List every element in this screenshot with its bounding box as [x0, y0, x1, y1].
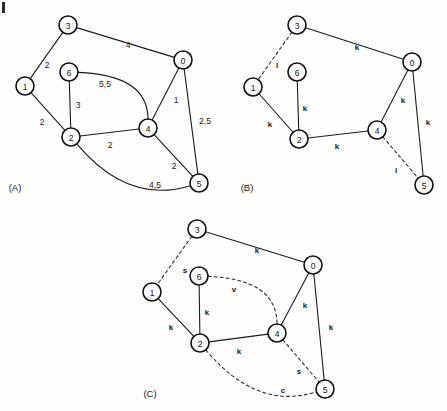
edge-weight-label: k: [303, 301, 308, 310]
node-label: 0: [410, 58, 415, 68]
edge-weight-label: 5,5: [99, 79, 111, 89]
node-c-2: 2: [191, 334, 209, 352]
node-a-2: 2: [62, 128, 80, 146]
edge-weight-label: k: [205, 308, 210, 317]
edge-weight-label: 2: [45, 60, 50, 70]
node-label: 5: [323, 385, 328, 395]
node-a-3: 3: [59, 16, 77, 34]
panel-caption-c: (C): [143, 388, 156, 399]
edge-weight-label: 2,5: [199, 116, 211, 126]
node-b-0: 0: [403, 53, 421, 71]
node-b-3: 3: [288, 16, 306, 34]
node-label: 1: [150, 288, 155, 298]
edge-weight-label: l: [395, 166, 397, 175]
node-label: 0: [181, 56, 186, 66]
node-label: 4: [146, 124, 151, 134]
edge-weight-label: c: [281, 386, 286, 395]
node-label: 6: [295, 68, 300, 78]
node-c-5: 5: [316, 380, 334, 398]
node-a-6: 6: [60, 63, 78, 81]
node-c-3: 3: [188, 220, 206, 238]
node-label: 3: [295, 21, 300, 31]
edge-weight-label: l: [276, 61, 278, 70]
edge-weight-label: s: [183, 266, 188, 275]
node-label: 2: [198, 339, 203, 349]
node-b-6: 6: [288, 63, 306, 81]
edge-c-6-2: [199, 285, 200, 334]
node-label: 6: [197, 272, 202, 282]
node-a-5: 5: [190, 174, 208, 192]
edge-weight-label: v: [232, 285, 237, 294]
node-c-0: 0: [304, 256, 322, 274]
node-a-0: 0: [174, 51, 192, 69]
edge-weight-label: 4,5: [149, 180, 161, 190]
edge-weight-label: k: [237, 347, 242, 356]
edge-weight-label: k: [355, 43, 360, 52]
node-label: 5: [197, 179, 202, 189]
edge-weight-label: 3: [76, 100, 81, 110]
node-label: 0: [311, 261, 316, 271]
edge-weight-label: k: [303, 104, 308, 113]
edge-weight-label: k: [329, 323, 334, 332]
edge-weight-label: k: [268, 120, 273, 129]
edge-weight-label: k: [169, 323, 174, 332]
edge-weight-label: k: [255, 246, 260, 255]
node-label: 1: [23, 82, 28, 92]
figure-root: 42235,5212,524,53061425(A)klkkkkkl306142…: [0, 0, 447, 411]
edge-weight-label: s: [297, 367, 302, 376]
edge-weight-label: k: [401, 96, 406, 105]
node-label: 2: [297, 135, 302, 145]
node-c-1: 1: [143, 283, 161, 301]
node-b-5: 5: [415, 176, 433, 194]
edge-weight-label: 1: [174, 95, 179, 105]
node-a-4: 4: [139, 119, 157, 137]
node-b-4: 4: [368, 121, 386, 139]
edge-weight-label: 2: [172, 161, 177, 171]
node-b-2: 2: [290, 130, 308, 148]
node-label: 5: [422, 181, 427, 191]
node-c-6: 6: [190, 267, 208, 285]
panel-caption-a: (A): [9, 182, 22, 193]
edge-weight-label: k: [426, 118, 431, 127]
node-label: 1: [251, 83, 256, 93]
edge-weight-label: k: [335, 142, 340, 151]
node-label: 3: [195, 225, 200, 235]
figure-background: [0, 0, 447, 411]
node-a-1: 1: [16, 77, 34, 95]
corner-artifact-mark: [2, 2, 5, 13]
node-label: 6: [67, 68, 72, 78]
edge-weight-label: 2: [40, 117, 45, 127]
node-label: 4: [275, 329, 280, 339]
node-c-4: 4: [268, 324, 286, 342]
node-label: 2: [69, 133, 74, 143]
graph-figure: 42235,5212,524,53061425(A)klkkkkkl306142…: [0, 0, 447, 411]
node-b-1: 1: [244, 78, 262, 96]
edge-weight-label: 2: [108, 140, 113, 150]
panel-caption-b: (B): [241, 182, 254, 193]
node-label: 4: [375, 126, 380, 136]
node-label: 3: [66, 21, 71, 31]
edge-weight-label: 4: [126, 40, 131, 50]
